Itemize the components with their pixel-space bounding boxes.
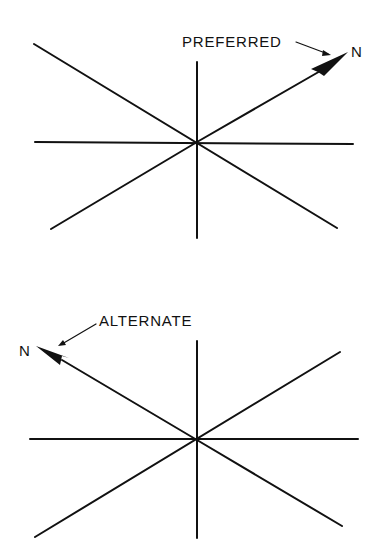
north-arrow-shaft [197, 70, 322, 142]
north-label-bottom: N [19, 342, 30, 359]
orientation-diagram: PREFERRED N ALTERNATE N [0, 0, 390, 554]
diagonal-ne-sw [35, 352, 340, 537]
alternate-leader-line [62, 324, 96, 344]
alternate-diagram [30, 324, 358, 538]
diagonal-nw-se [34, 44, 337, 228]
diagonal-sw-center [51, 142, 197, 229]
diagonal-center-se [197, 440, 342, 526]
leader-arrowhead-icon [322, 50, 331, 56]
north-label-top: N [351, 43, 362, 60]
preferred-label: PREFERRED [182, 33, 282, 50]
preferred-diagram [34, 42, 353, 238]
north-arrow-shaft [62, 360, 197, 440]
alternate-label: ALTERNATE [99, 312, 192, 329]
